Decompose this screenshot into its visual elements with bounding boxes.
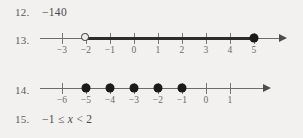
item-number-12: 12. bbox=[15, 6, 29, 18]
axis-tick-label: −1 bbox=[173, 95, 191, 105]
axis-arrow-right-icon bbox=[279, 34, 287, 42]
axis-tick-label: −3 bbox=[125, 95, 143, 105]
axis-tick-label: 4 bbox=[221, 45, 239, 55]
axis-tick-label: −2 bbox=[77, 45, 95, 55]
axis-tick-label: 3 bbox=[197, 45, 215, 55]
closed-endpoint-dot bbox=[154, 84, 162, 92]
number-line-13: −3−2−1012345 bbox=[0, 28, 303, 62]
axis-tick bbox=[62, 83, 63, 94]
axis-tick-label: −4 bbox=[101, 95, 119, 105]
axis-tick bbox=[230, 83, 231, 94]
closed-endpoint-dot bbox=[178, 84, 186, 92]
closed-endpoint-dot bbox=[130, 84, 138, 92]
item-answer-15: −1 ≤ x < 2 bbox=[42, 113, 92, 125]
axis-tick-label: 1 bbox=[221, 95, 239, 105]
closed-endpoint-dot bbox=[250, 34, 258, 42]
axis-tick bbox=[62, 33, 63, 44]
axis-tick-label: 5 bbox=[245, 45, 263, 55]
item-answer-12: −140 bbox=[42, 6, 67, 18]
axis-tick-label: 2 bbox=[173, 45, 191, 55]
item-number-15: 15. bbox=[15, 113, 29, 125]
axis-tick-label: −1 bbox=[101, 45, 119, 55]
axis-tick-label: 0 bbox=[125, 45, 143, 55]
axis-tick bbox=[206, 83, 207, 94]
axis-tick-label: −2 bbox=[149, 95, 167, 105]
axis-tick-label: −3 bbox=[53, 45, 71, 55]
closed-endpoint-dot bbox=[106, 84, 114, 92]
number-line-14: −6−5−4−3−2−101 bbox=[0, 78, 303, 112]
inequality-part-2: < 2 bbox=[73, 113, 92, 125]
axis-tick-label: −5 bbox=[77, 95, 95, 105]
inequality-part-0: −1 ≤ bbox=[42, 113, 68, 125]
axis-arrow-right-icon bbox=[263, 84, 271, 92]
axis-tick-label: −6 bbox=[53, 95, 71, 105]
solution-segment bbox=[86, 37, 254, 40]
closed-endpoint-dot bbox=[82, 84, 90, 92]
open-endpoint-dot bbox=[81, 33, 89, 41]
axis-tick-label: 0 bbox=[197, 95, 215, 105]
axis-tick-label: 1 bbox=[149, 45, 167, 55]
worksheet-page: 12. −140 13. −3−2−1012345 14. −6−5−4−3−2… bbox=[0, 0, 303, 138]
